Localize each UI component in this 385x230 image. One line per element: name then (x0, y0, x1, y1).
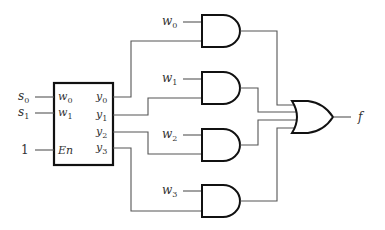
or-gate (292, 101, 333, 133)
mux-circuit-diagram: s0 s1 1 w0 w1 En y0 y1 y2 y3 w0 w1 w2 w3… (0, 0, 385, 230)
w2-label: w2 (162, 127, 177, 143)
f-output-label: f (357, 110, 365, 124)
y1-wire (113, 98, 202, 115)
and-gate-0 (202, 15, 240, 47)
and-gate-2 (202, 129, 240, 161)
and-gate-3 (202, 185, 240, 217)
and0-output-wire (240, 31, 295, 105)
enable-value-label: 1 (21, 143, 29, 157)
w1-label: w1 (162, 71, 177, 87)
and-gate-1 (202, 72, 240, 104)
w0-label: w0 (162, 14, 177, 30)
en-pin-label: En (57, 144, 73, 157)
s0-label: s0 (18, 89, 29, 105)
and3-output-wire (240, 128, 295, 201)
w3-label: w3 (162, 183, 177, 199)
y0-wire (113, 41, 202, 97)
and2-output-wire (240, 120, 298, 145)
s1-label: s1 (18, 105, 29, 121)
and1-output-wire (240, 88, 298, 112)
y3-wire (113, 148, 202, 211)
